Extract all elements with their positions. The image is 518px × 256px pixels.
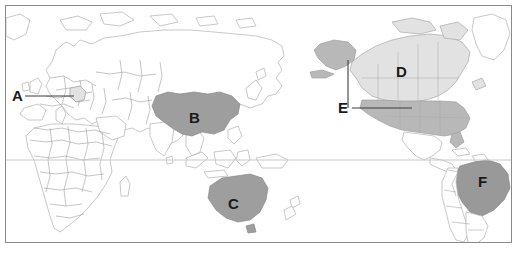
map-figure: A B C D E F: [0, 0, 518, 256]
world-map-svg: [0, 0, 518, 256]
arctic-islands-a: [60, 16, 92, 30]
arctic-islands-c: [150, 14, 178, 26]
borneo: [214, 150, 236, 168]
arctic-islands-e: [236, 18, 256, 28]
tasmania: [246, 224, 256, 233]
usa-shape: [360, 100, 470, 136]
greenland: [472, 14, 510, 60]
ireland: [22, 82, 30, 91]
baffin-island: [440, 22, 468, 40]
florida-peninsula: [450, 132, 464, 148]
map-label-b: B: [189, 110, 200, 125]
aleutian-chain: [310, 70, 334, 78]
arctic-islands-b: [100, 12, 134, 26]
philippines: [228, 126, 242, 144]
newfoundland: [472, 78, 486, 90]
map-label-c: C: [228, 196, 239, 211]
madagascar: [120, 176, 130, 196]
greenland-sliver: [6, 14, 30, 40]
cuba: [452, 148, 470, 156]
map-label-d: D: [396, 64, 407, 79]
map-label-a: A: [12, 88, 23, 103]
region-alaska: [310, 40, 356, 78]
new-guinea: [256, 154, 288, 168]
british-isles: [30, 78, 42, 94]
new-zealand-s: [284, 206, 296, 220]
africa: [26, 124, 118, 232]
greenland-shape: [472, 14, 510, 60]
java: [204, 170, 228, 178]
alaska-shape: [314, 40, 356, 70]
canada-arctic-islands: [392, 18, 436, 34]
map-label-e: E: [338, 100, 348, 115]
sulawesi: [236, 150, 250, 166]
arctic-islands-d: [196, 16, 218, 26]
canada-shape: [350, 34, 470, 102]
argentina-chile: [466, 212, 488, 244]
mexico-shape: [402, 132, 442, 160]
map-label-f: F: [478, 174, 487, 189]
iberia: [20, 104, 46, 120]
